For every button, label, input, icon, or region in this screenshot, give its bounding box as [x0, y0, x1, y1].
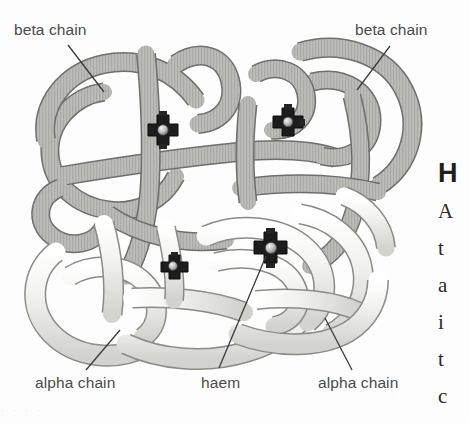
haemoglobin-figure [0, 0, 469, 423]
iron-atom [265, 242, 276, 253]
label-alpha-chain-right: alpha chain [318, 375, 398, 391]
label-beta-chain-left: beta chain [14, 22, 87, 38]
iron-atom [283, 117, 293, 127]
iron-atom [158, 125, 168, 135]
iron-atom [169, 262, 178, 271]
clipped-margin-text-column: H A t a i t c [438, 160, 469, 423]
page-bleedthrough-text: · · · · [0, 402, 469, 423]
label-beta-chain-right: beta chain [355, 22, 428, 38]
haemoglobin-illustration [0, 0, 469, 423]
margin-line-fragment-4: i [438, 312, 469, 333]
label-alpha-chain-left: alpha chain [35, 375, 115, 391]
margin-heading-fragment: H [438, 160, 469, 187]
margin-line-fragment-3: a [438, 275, 469, 296]
margin-line-fragment-1: A [438, 201, 469, 222]
label-haem: haem [201, 375, 240, 391]
margin-line-fragment-2: t [438, 238, 469, 259]
margin-line-fragment-5: t [438, 349, 469, 370]
